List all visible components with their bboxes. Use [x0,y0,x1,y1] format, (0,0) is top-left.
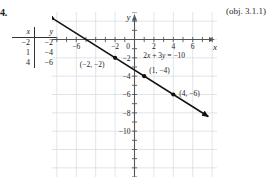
cell-x: 4 [12,58,35,68]
y-tick-label: −6 [123,90,131,99]
value-table-body: −2 −2 1 −4 4 −6 [12,38,57,69]
table-row: 4 −6 [12,58,57,68]
axis-tick-labels: −6−20246−2−4−6−8−10xy [72,12,217,136]
objective-reference: (obj. 3.1.1) [226,6,266,16]
graph-canvas: −6−20246−2−4−6−8−10xy (−2, −2)(1, −4)(4,… [52,12,217,177]
value-table-grid: x y −2 −2 1 −4 4 −6 [12,27,57,68]
y-axis-label: y [126,12,131,22]
line-2x-plus-3y-equals-neg10 [55,20,208,117]
data-point [142,74,146,78]
exercise-page: 4. (obj. 3.1.1) x y −2 −2 1 −4 [0,0,272,179]
cell-x: 1 [12,48,35,58]
x-tick-label: 4 [171,42,175,51]
data-point [171,92,175,96]
column-header-x: x [12,27,35,38]
y-tick-label: −2 [123,54,131,63]
point-label: (−2, −2) [80,60,105,69]
table-row: 1 −4 [12,48,57,58]
y-tick-label: −8 [123,109,131,118]
problem-number: 4. [0,7,7,18]
x-axis-label: x [212,42,217,52]
equation-label: 2x + 3y = −10 [143,51,185,60]
plotted-line [55,20,208,117]
table-header-row: x y [12,27,57,38]
y-tick-label: −4 [123,72,131,81]
x-tick-label: −6 [72,42,80,51]
x-tick-label: 0 [126,42,130,51]
cell-x: −2 [12,38,35,49]
value-table: x y −2 −2 1 −4 4 −6 [12,27,57,68]
point-label: (1, −4) [149,66,170,75]
x-tick-label: −2 [111,42,119,51]
point-label: (4, −6) [179,89,200,98]
coordinate-graph: −6−20246−2−4−6−8−10xy (−2, −2)(1, −4)(4,… [52,12,217,177]
table-row: −2 −2 [12,38,57,49]
x-tick-label: 6 [191,42,195,51]
x-tick-label: 2 [152,42,156,51]
y-tick-label: −10 [119,127,131,136]
data-point [113,56,117,60]
value-table-head: x y [12,27,57,38]
